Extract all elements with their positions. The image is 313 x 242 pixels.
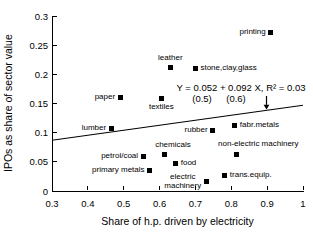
data-point-label: non-electric machinery	[198, 140, 313, 149]
data-point	[118, 95, 123, 100]
x-tick-label: 0.5	[109, 198, 139, 209]
data-point-label: rubber	[185, 126, 208, 135]
y-tick-label: 0.1	[18, 127, 48, 138]
data-point	[147, 168, 152, 173]
x-tick-label: 0.7	[180, 198, 210, 209]
data-point-label: printing	[239, 28, 265, 37]
data-point	[222, 173, 227, 178]
regression-se-slope: (0.6)	[222, 93, 250, 104]
data-point-label: textiles	[101, 103, 221, 112]
data-point	[210, 128, 215, 133]
y-axis-title: IPOs as share of sector value	[2, 16, 14, 191]
x-tick	[267, 186, 268, 190]
x-tick	[87, 186, 88, 190]
data-point	[159, 96, 164, 101]
data-point-label: paper	[95, 93, 115, 102]
y-tick	[53, 132, 57, 133]
scatter-plot-figure: IPOs as share of sector value Share of h…	[0, 0, 313, 242]
y-tick-label: 0.3	[18, 11, 48, 22]
data-point-label: primary metals	[92, 166, 144, 175]
data-point	[193, 66, 198, 71]
data-point	[109, 126, 114, 131]
data-point-label: trans.equip.	[230, 171, 272, 180]
x-tick	[123, 186, 124, 190]
data-point	[204, 179, 209, 184]
y-tick	[53, 161, 57, 162]
y-tick-label: 0.25	[18, 40, 48, 51]
data-point-label: stone,clay,glass	[200, 64, 256, 73]
regression-equation: Y = 0.052 + 0.092 X, R² = 0.03	[168, 82, 313, 93]
x-tick	[303, 186, 304, 190]
x-tick-label: 0.6	[145, 198, 175, 209]
x-tick	[231, 186, 232, 190]
x-tick	[52, 186, 53, 190]
y-tick	[53, 103, 57, 104]
data-point-label: electric machinery	[164, 173, 201, 190]
x-tick-label: 0.4	[73, 198, 103, 209]
data-point-label: petrol/coal	[101, 152, 138, 161]
x-tick-label: 0.9	[252, 198, 282, 209]
y-tick-label: 0.2	[18, 69, 48, 80]
data-point-label: leather	[110, 54, 230, 63]
data-point	[173, 161, 178, 166]
x-tick	[159, 186, 160, 190]
y-tick-label: 0.15	[18, 98, 48, 109]
data-point-label: fabr.metals	[240, 121, 279, 130]
y-tick	[53, 74, 57, 75]
data-point	[168, 65, 173, 70]
data-point	[232, 123, 237, 128]
data-point-label: food	[181, 159, 197, 168]
x-tick-label: 0.8	[216, 198, 246, 209]
x-tick-label: 0.3	[37, 198, 67, 209]
x-tick-label: 1	[288, 198, 313, 209]
y-tick	[53, 45, 57, 46]
data-point	[162, 152, 167, 157]
data-point-label: lumber	[82, 124, 106, 133]
y-tick-label: 0	[18, 186, 48, 197]
y-tick	[53, 191, 57, 192]
data-point	[141, 154, 146, 159]
x-axis-title: Share of h.p. driven by electricity	[52, 215, 303, 227]
y-tick	[53, 16, 57, 17]
data-point	[268, 30, 273, 35]
y-tick-label: 0.05	[18, 156, 48, 167]
data-point	[234, 152, 239, 157]
